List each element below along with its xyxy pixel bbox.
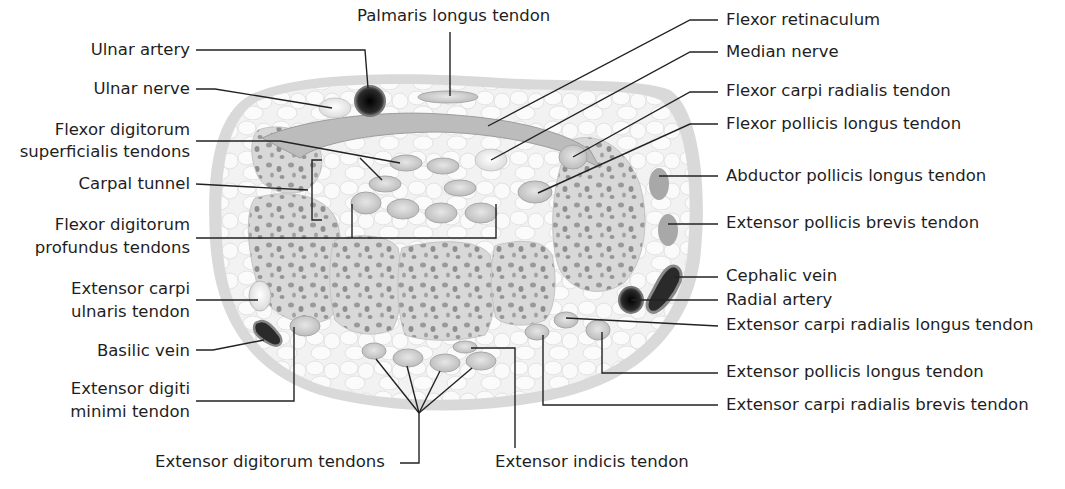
label-epl: Extensor pollicis longus tendon [726,362,984,382]
extensor-carpi-ulnaris-tendon [249,281,271,311]
flexor-pollicis-longus-tendon [518,181,552,203]
fdp-tendon [387,199,419,219]
label-apl: Abductor pollicis longus tendon [726,166,986,186]
extensor-digitorum-tendon [393,349,423,367]
fds-tendon [390,155,422,171]
palmaris-longus-tendon [418,91,478,103]
ulnar-nerve [319,98,351,118]
label-palmaris-longus: Palmaris longus tendon [357,6,550,26]
extensor-carpi-radialis-longus-tendon [554,312,578,328]
fds-tendon [427,158,459,174]
label-ecrl: Extensor carpi radialis longus tendon [726,315,1033,335]
abductor-pollicis-longus-tendon [649,168,669,200]
carpal-bone-trapezoid [491,241,555,325]
carpal-bone-capitate-2 [398,242,495,340]
label-ecrb: Extensor carpi radialis brevis tendon [726,395,1029,415]
fdp-tendon [351,192,381,214]
extensor-digitorum-tendon [430,354,460,372]
label-fdp-line1: Flexor digitorum [55,215,190,235]
extensor-pollicis-longus-tendon [586,320,610,340]
label-carpal-tunnel: Carpal tunnel [79,174,190,194]
label-fdp-line2: profundus tendons [35,238,190,258]
extensor-digitorum-tendon [466,352,496,370]
extensor-indicis-tendon [453,341,477,353]
fds-tendon [444,180,476,196]
fdp-tendon [425,203,457,223]
label-fpl: Flexor pollicis longus tendon [726,114,961,134]
label-fds-line1: Flexor digitorum [55,120,190,140]
label-ecu-line1: Extensor carpi [71,279,190,299]
label-ecu-line2: ulnaris tendon [71,302,190,322]
label-radial-artery: Radial artery [726,290,832,310]
label-basilic-vein: Basilic vein [97,341,190,361]
label-median-nerve: Median nerve [726,42,839,62]
label-flexor-retinaculum: Flexor retinaculum [726,10,880,30]
extensor-digitorum-tendon [362,343,386,359]
fds-tendon [369,176,401,192]
label-edm-line1: Extensor digiti [71,379,190,399]
extensor-carpi-radialis-brevis-tendon [525,324,549,340]
extensor-pollicis-brevis-tendon [658,214,678,246]
carpal-bone-capitate-1 [330,236,402,334]
label-fds-line2: superficialis tendons [20,142,190,162]
label-fcr: Flexor carpi radialis tendon [726,81,951,101]
fdp-tendon [465,203,497,223]
label-epb: Extensor pollicis brevis tendon [726,213,979,233]
label-cephalic-vein: Cephalic vein [726,266,837,286]
label-edm-line2: minimi tendon [70,402,190,422]
label-ulnar-artery: Ulnar artery [91,40,190,60]
ulnar-artery [355,86,385,116]
label-extensor-digitorum: Extensor digitorum tendons [155,452,385,472]
label-ulnar-nerve: Ulnar nerve [93,79,190,99]
label-extensor-indicis: Extensor indicis tendon [495,452,689,472]
